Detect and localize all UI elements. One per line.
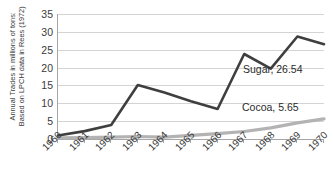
y-tick-30: 30	[33, 26, 53, 38]
y-axis-title: Annual Trades in millions of tons: Based…	[8, 0, 27, 132]
y-tick-5: 5	[33, 115, 53, 127]
y-axis-tick-labels: 05101520253035	[33, 9, 53, 143]
y-axis-title-line-2: Based on LPCH data in Rees (1972)	[17, 0, 26, 132]
y-tick-10: 10	[33, 97, 53, 109]
y-tick-20: 20	[33, 62, 53, 74]
y-axis-title-line-1: Annual Trades in millions of tons:	[8, 0, 17, 132]
line-chart: Annual Trades in millions of tons: Based…	[0, 0, 333, 177]
y-tick-15: 15	[33, 79, 53, 91]
series-lines	[58, 14, 324, 139]
sugar-data-label: Sugar, 26.54	[243, 63, 303, 75]
plot-area	[57, 14, 324, 140]
cocoa-data-label: Cocoa, 5.65	[242, 101, 299, 113]
y-tick-35: 35	[33, 8, 53, 20]
x-axis-tick-labels: 1960196119621963196419651966196719681969…	[57, 145, 324, 177]
y-tick-25: 25	[33, 44, 53, 56]
sugar-line	[58, 37, 324, 136]
